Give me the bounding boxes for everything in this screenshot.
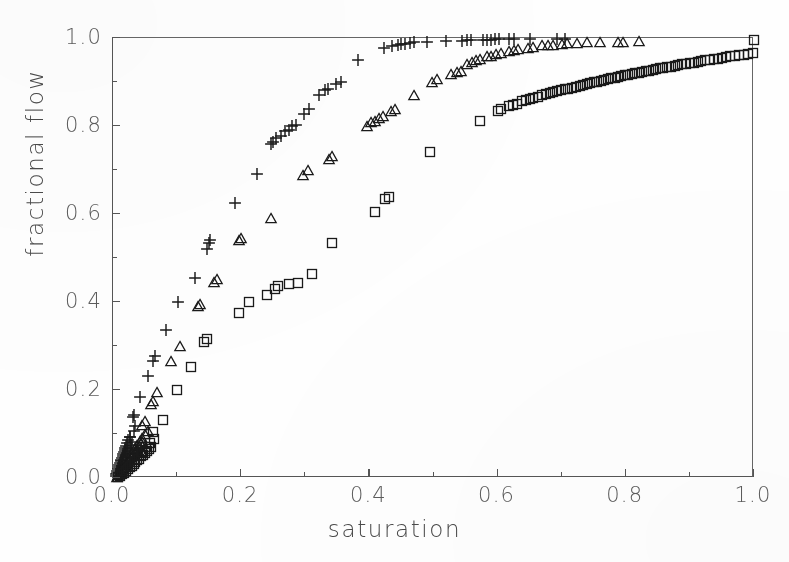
data-point-square: [657, 62, 668, 73]
data-point-square: [665, 61, 676, 72]
data-point-triangle: [522, 42, 534, 53]
data-point-triangle: [326, 150, 338, 161]
data-point-square: [136, 451, 147, 462]
data-point-plus: [133, 391, 146, 404]
data-point-triangle: [135, 438, 147, 449]
data-point-square: [186, 362, 197, 373]
data-point-plus: [282, 123, 295, 136]
data-point-triangle: [323, 153, 335, 164]
x-axis-title: saturation: [0, 516, 789, 542]
data-point-triangle: [556, 38, 568, 49]
data-point-plus: [204, 233, 217, 246]
data-point-square: [602, 74, 613, 85]
data-point-square: [140, 447, 151, 458]
y-axis-tick-label: 0.2: [65, 377, 102, 401]
data-point-square: [743, 48, 754, 59]
data-point-triangle: [121, 458, 133, 469]
data-point-triangle: [119, 461, 131, 472]
data-point-triangle: [490, 49, 502, 60]
data-point-square: [688, 57, 699, 68]
y-axis-minor-tick: [112, 169, 117, 170]
y-axis-minor-tick: [112, 433, 117, 434]
data-point-triangle: [512, 44, 524, 55]
data-point-plus: [119, 442, 132, 455]
data-point-plus: [117, 457, 130, 470]
data-point-triangle: [426, 77, 438, 88]
data-point-triangle: [495, 48, 507, 59]
data-point-square: [616, 71, 627, 82]
data-point-triangle: [503, 46, 515, 57]
data-point-square: [540, 89, 551, 100]
data-point-square: [379, 194, 390, 205]
data-point-plus: [113, 458, 126, 471]
data-point-plus: [119, 450, 132, 463]
data-point-square: [749, 34, 760, 45]
data-point-triangle: [136, 436, 148, 447]
data-point-plus: [318, 83, 331, 96]
data-point-plus: [114, 455, 127, 468]
x-axis-tick-label: 0.8: [606, 483, 643, 507]
x-axis-minor-tick: [433, 472, 434, 477]
data-point-triangle: [131, 439, 143, 450]
data-point-triangle: [536, 40, 548, 51]
data-point-square: [556, 85, 567, 96]
data-point-square: [581, 79, 592, 90]
x-axis-minor-tick: [304, 472, 305, 477]
data-point-square: [669, 60, 680, 71]
data-point-square: [149, 433, 160, 444]
data-point-square: [273, 281, 284, 292]
data-point-plus: [203, 237, 216, 250]
y-axis-major-tick: [112, 477, 120, 478]
data-point-square: [640, 66, 651, 77]
data-point-square: [647, 64, 658, 75]
data-point-plus: [391, 38, 404, 51]
data-point-square: [504, 101, 515, 112]
data-point-triangle: [211, 274, 223, 285]
data-point-triangle: [485, 50, 497, 61]
data-point-square: [563, 83, 574, 94]
data-point-triangle: [445, 69, 457, 80]
data-point-triangle: [461, 59, 473, 70]
data-point-triangle: [136, 432, 148, 443]
data-point-square: [566, 82, 577, 93]
data-point-square: [700, 55, 711, 66]
data-point-triangle: [235, 232, 247, 243]
data-point-triangle: [134, 436, 146, 447]
data-point-square: [626, 69, 637, 80]
data-point-square: [126, 460, 137, 471]
data-point-triangle: [481, 51, 493, 62]
data-point-triangle: [571, 37, 583, 48]
data-point-square: [172, 385, 183, 396]
data-point-plus: [489, 33, 502, 46]
data-point-square: [559, 84, 570, 95]
data-point-square: [528, 92, 539, 103]
figure-canvas: fractional flow: [0, 0, 789, 562]
data-point-plus: [456, 34, 469, 47]
data-point-plus: [122, 434, 135, 447]
data-point-plus: [129, 420, 142, 433]
data-point-triangle: [508, 45, 520, 56]
y-axis-major-tick: [112, 125, 120, 126]
data-point-plus: [128, 409, 141, 422]
data-point-square: [383, 192, 394, 203]
data-point-triangle: [547, 39, 559, 50]
data-point-plus: [302, 103, 315, 116]
data-point-square: [157, 414, 168, 425]
data-point-triangle: [474, 54, 486, 65]
data-point-plus: [118, 443, 131, 456]
data-point-triangle: [129, 447, 141, 458]
data-point-square: [591, 76, 602, 87]
y-axis-major-tick: [112, 37, 120, 38]
data-point-square: [630, 68, 641, 79]
data-point-square: [134, 453, 145, 464]
data-point-square: [613, 71, 624, 82]
data-point-triangle: [361, 121, 373, 132]
data-point-square: [130, 457, 141, 468]
data-point-plus: [146, 355, 159, 368]
data-point-square: [120, 465, 131, 476]
x-axis-tick-label: 0.6: [478, 483, 515, 507]
data-point-square: [684, 58, 695, 69]
data-point-plus: [123, 431, 136, 444]
data-point-square: [708, 54, 719, 65]
data-point-plus: [126, 435, 139, 448]
